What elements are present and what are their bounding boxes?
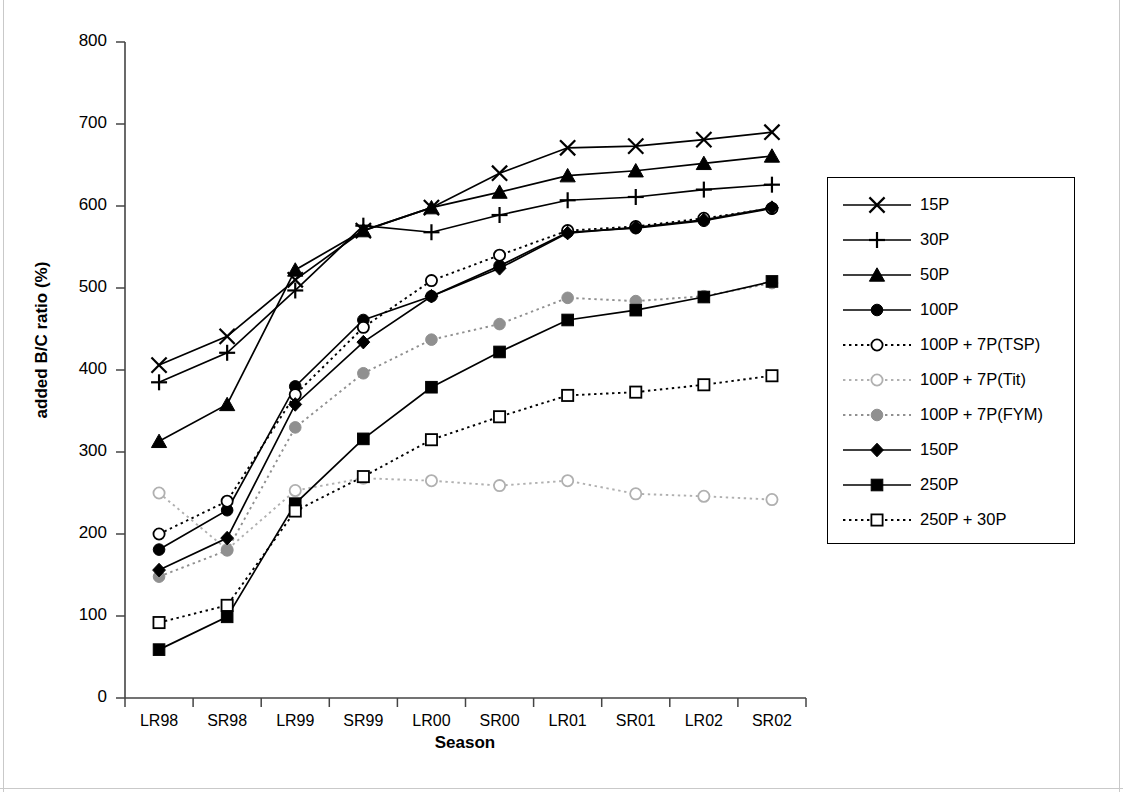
series-100p	[153, 203, 778, 556]
legend-item-250p[interactable]: 250P	[828, 467, 1074, 502]
legend-item-150p[interactable]: 150P	[828, 432, 1074, 467]
legend-marker	[871, 409, 883, 421]
data-point	[494, 480, 505, 491]
data-point	[562, 292, 574, 304]
data-point	[764, 177, 780, 193]
legend-item-100p-7p-tit-[interactable]: 100P + 7P(Tit)	[828, 362, 1074, 397]
data-point	[766, 370, 777, 381]
data-point	[630, 304, 642, 316]
legend-symbol-circle-filled-icon	[840, 299, 914, 321]
legend-item-50p[interactable]: 50P	[828, 257, 1074, 292]
legend-swatch	[840, 299, 914, 321]
y-axis-tick-label: 600	[47, 195, 107, 215]
legend-swatch	[840, 439, 914, 461]
series-line	[159, 478, 772, 549]
line-chart: added B/C ratio (%) Season 8007006005004…	[0, 0, 1123, 792]
data-point	[153, 544, 165, 556]
data-point	[560, 192, 576, 208]
legend-label: 100P + 7P(Tit)	[914, 370, 1026, 389]
legend-label: 30P	[914, 230, 949, 249]
legend-swatch	[840, 194, 914, 216]
data-point	[494, 411, 505, 422]
y-axis-tick-label: 400	[47, 359, 107, 379]
series-100p-7p-tsp-	[153, 203, 777, 540]
data-point	[494, 346, 506, 358]
data-point	[358, 433, 370, 445]
data-point	[220, 329, 235, 344]
y-axis-tick-label: 800	[47, 31, 107, 51]
legend-label: 100P + 7P(TSP)	[914, 335, 1040, 354]
legend-label: 50P	[914, 265, 949, 284]
y-axis-title: added B/C ratio (%)	[32, 220, 52, 460]
data-point	[423, 224, 439, 240]
legend-item-100p-7p-tsp-[interactable]: 100P + 7P(TSP)	[828, 327, 1074, 362]
x-axis-title: Season	[115, 733, 815, 753]
data-point	[153, 487, 164, 498]
data-point	[630, 488, 641, 499]
series-line	[159, 208, 772, 570]
legend-marker	[871, 304, 883, 316]
data-point	[151, 374, 167, 390]
legend-item-100p-7p-fym-[interactable]: 100P + 7P(FYM)	[828, 397, 1074, 432]
data-point	[222, 496, 233, 507]
data-point	[153, 528, 164, 539]
x-axis-tick-label: SR02	[732, 712, 812, 730]
legend-swatch	[840, 474, 914, 496]
legend-item-100p[interactable]: 100P	[828, 292, 1074, 327]
legend-label: 250P + 30P	[914, 510, 1006, 529]
legend-swatch	[840, 264, 914, 286]
series-100p-7p-fym-	[153, 277, 778, 582]
legend-label: 100P + 7P(FYM)	[914, 405, 1043, 424]
legend-swatch	[840, 369, 914, 391]
data-point	[698, 291, 710, 303]
data-point	[766, 276, 778, 288]
legend-item-30p[interactable]: 30P	[828, 222, 1074, 257]
data-point	[153, 644, 165, 656]
data-point	[426, 334, 438, 346]
data-point	[289, 422, 301, 434]
data-point	[358, 471, 369, 482]
y-axis-tick-label: 500	[47, 277, 107, 297]
data-point	[358, 367, 370, 379]
data-point	[153, 617, 164, 628]
data-point	[766, 494, 777, 505]
data-point	[221, 611, 233, 623]
data-point	[221, 531, 234, 545]
data-point	[221, 545, 233, 557]
data-point	[698, 491, 709, 502]
series-line	[159, 185, 772, 383]
legend-symbol-circle-open-icon	[840, 334, 914, 356]
legend-symbol-triangle-icon	[840, 264, 914, 286]
legend-symbol-diamond-icon	[840, 439, 914, 461]
legend-swatch	[840, 334, 914, 356]
data-point	[562, 390, 573, 401]
data-point	[562, 475, 573, 486]
legend-symbol-cross-x-icon	[840, 194, 914, 216]
legend-marker	[871, 479, 883, 491]
legend-marker	[869, 232, 885, 248]
data-point	[494, 318, 506, 330]
data-point	[288, 263, 303, 276]
chart-legend: 15P30P50P100P100P + 7P(TSP)100P + 7P(Tit…	[827, 177, 1075, 544]
series-line	[159, 376, 772, 623]
data-point	[220, 397, 235, 410]
data-point	[426, 475, 437, 486]
y-axis-tick-label: 0	[47, 687, 107, 707]
legend-swatch	[840, 509, 914, 531]
legend-marker	[871, 514, 882, 525]
series-150p	[153, 201, 779, 577]
legend-symbol-plus-icon	[840, 229, 914, 251]
y-axis-tick-label: 300	[47, 441, 107, 461]
data-point	[562, 314, 574, 326]
data-point	[696, 182, 712, 198]
legend-item-250p-30p[interactable]: 250P + 30P	[828, 502, 1074, 537]
data-point	[222, 600, 233, 611]
data-point	[698, 379, 709, 390]
series-line	[159, 208, 772, 549]
legend-symbol-square-open-icon	[840, 509, 914, 531]
data-point	[426, 434, 437, 445]
data-point	[426, 381, 438, 393]
legend-item-15p[interactable]: 15P	[828, 187, 1074, 222]
legend-symbol-circle-filled-icon	[840, 404, 914, 426]
y-axis-tick-label: 700	[47, 113, 107, 133]
